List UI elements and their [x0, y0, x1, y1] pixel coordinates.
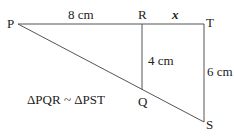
- segment-PS: [18, 24, 204, 122]
- point-label-T: T: [206, 16, 214, 29]
- point-label-S: S: [206, 118, 213, 131]
- point-label-P: P: [7, 17, 14, 30]
- triangle-diagram: [0, 0, 234, 139]
- measure-PR: 8 cm: [68, 8, 94, 21]
- measure-RQ: 4 cm: [148, 54, 174, 67]
- point-label-Q: Q: [138, 95, 147, 108]
- measure-RT: x: [172, 8, 179, 21]
- point-label-R: R: [138, 8, 147, 21]
- measure-TS: 6 cm: [207, 65, 233, 78]
- similarity-statement: ΔPQR ~ ΔPST: [27, 93, 105, 106]
